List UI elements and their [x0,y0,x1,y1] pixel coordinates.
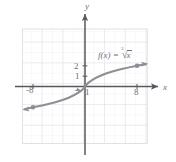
function-prefix: f(x) = [98,50,119,60]
x-tick-label-neg8: -8 [26,86,34,95]
y-tick-label-1: 1 [75,72,80,81]
x-axis-label: x [163,83,167,92]
graph-canvas [0,0,176,162]
y-axis-label: y [85,2,89,11]
radical-index: 3 [121,46,124,51]
radical-expression: 3 √x [121,50,132,60]
radicand: x [127,50,132,60]
cube-root-function-graph: y x -8 1 8 1 2 f(x) = 3 √x [0,0,176,162]
function-expression-label: f(x) = 3 √x [98,50,132,60]
x-tick-label-1: 1 [85,88,90,97]
y-tick-label-2: 2 [74,62,79,71]
x-tick-label-8: 8 [134,88,139,97]
